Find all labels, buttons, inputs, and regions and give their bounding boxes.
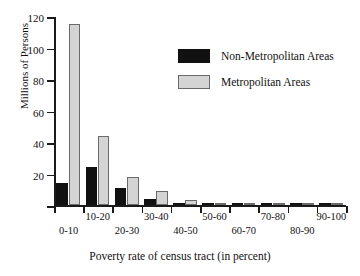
bar-nonmetro-10-20 [86,167,98,205]
x-axis-label-30-40: 30-40 [144,211,169,222]
legend-swatch-non-metropolitan [178,49,210,63]
legend-item-non-metropolitan: Non-Metropolitan Areas [178,46,353,65]
legend-item-metropolitan: Metropolitan Areas [178,72,353,91]
x-axis-label-20-30: 20-30 [115,225,140,236]
bar-metro-90-100 [331,203,343,205]
bar-nonmetro-20-30 [115,188,127,205]
x-axis-label-60-70: 60-70 [232,225,257,236]
bar-nonmetro-50-60 [202,203,214,205]
legend-swatch-metropolitan [178,75,210,89]
bar-metro-0-10 [69,24,81,205]
y-axis-tick [47,17,56,19]
bar-metro-50-60 [215,203,227,205]
bar-metro-40-50 [185,200,197,205]
y-axis-tick-label: 60 [33,107,44,118]
x-axis-label-90-100: 90-100 [317,211,347,222]
bar-nonmetro-30-40 [144,199,156,205]
x-axis-label-80-90: 80-90 [290,225,315,236]
x-axis-tick-labels: 0-1010-2020-3030-4040-5050-6060-7070-808… [54,211,346,241]
bar-metro-20-30 [127,177,139,205]
y-axis-tick-label: 80 [33,76,44,87]
bar-metro-30-40 [156,191,168,205]
x-axis-label-10-20: 10-20 [86,211,111,222]
bar-nonmetro-90-100 [319,203,331,205]
bar-metro-10-20 [98,136,110,205]
y-axis-tick [47,175,56,177]
legend-label-non-metropolitan: Non-Metropolitan Areas [221,50,334,62]
bar-metro-60-70 [244,203,256,205]
bar-nonmetro-70-80 [261,203,273,205]
legend-label-metropolitan: Metropolitan Areas [221,76,310,88]
y-axis-tick-label: 20 [33,170,44,181]
bar-metro-70-80 [273,203,285,205]
bar-nonmetro-60-70 [232,203,244,205]
y-axis-tick [47,143,56,145]
y-axis-tick [47,80,56,82]
y-axis-tick [47,112,56,114]
y-axis-tick-label: 40 [33,139,44,150]
y-axis-tick-label: 100 [28,44,45,55]
poverty-rate-bar-chart: Millions of Persons 20406080100120 0-101… [0,0,360,276]
y-axis-tick [47,49,56,51]
bar-nonmetro-80-90 [290,203,302,205]
x-axis-label-50-60: 50-60 [202,211,227,222]
x-axis-title: Poverty rate of census tract (in percent… [0,250,360,262]
bar-nonmetro-40-50 [173,203,185,205]
x-axis-label-70-80: 70-80 [261,211,286,222]
x-axis-label-40-50: 40-50 [173,225,198,236]
bar-nonmetro-0-10 [56,183,68,205]
chart-legend: Non-Metropolitan Areas Metropolitan Area… [178,46,353,98]
x-axis-label-0-10: 0-10 [59,225,78,236]
y-axis-tick-label: 120 [28,13,45,24]
bar-metro-80-90 [302,203,314,205]
